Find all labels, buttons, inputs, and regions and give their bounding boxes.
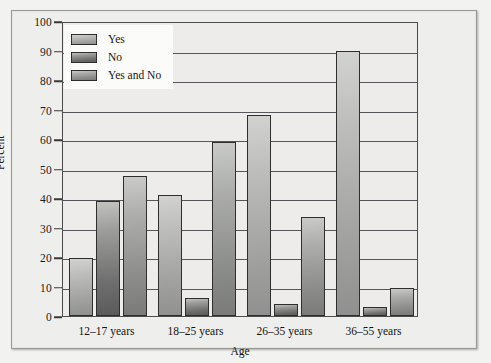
- bar-group: [247, 23, 325, 316]
- bar: [247, 115, 271, 316]
- legend-item: No: [71, 48, 161, 66]
- y-axis-tick-label: 100: [12, 16, 52, 28]
- legend-swatch-icon: [71, 52, 97, 63]
- y-axis-tick-mark: [54, 80, 62, 82]
- bar: [274, 304, 298, 316]
- bar: [336, 51, 360, 317]
- x-axis-tick-label: 26–35 years: [257, 325, 313, 337]
- legend-swatch-icon: [71, 34, 97, 45]
- legend-swatch-icon: [71, 70, 97, 81]
- y-axis-tick-label: 0: [12, 311, 52, 323]
- y-axis-tick-mark: [54, 257, 62, 259]
- x-axis-tick-label: 36–55 years: [346, 325, 402, 337]
- y-axis-tick-label: 40: [12, 193, 52, 205]
- legend-item-label: Yes and No: [108, 69, 161, 81]
- legend-item-label: Yes: [108, 33, 125, 45]
- y-axis-tick-label: 50: [12, 164, 52, 176]
- bar: [69, 258, 93, 316]
- y-axis-tick-label: 60: [12, 134, 52, 146]
- legend-item: Yes and No: [71, 66, 161, 84]
- bar: [212, 142, 236, 316]
- y-axis-tick-label: 10: [12, 282, 52, 294]
- bar: [158, 195, 182, 316]
- legend-item-label: No: [108, 51, 122, 63]
- y-axis-tick-label: 30: [12, 223, 52, 235]
- y-axis-tick-mark: [54, 316, 62, 318]
- chart-legend: YesNoYes and No: [64, 25, 173, 89]
- bar: [390, 288, 414, 316]
- y-axis-tick-label: 90: [12, 46, 52, 58]
- y-axis-tick-mark: [54, 139, 62, 141]
- y-axis-tick-mark: [54, 198, 62, 200]
- y-axis-tick-label: 70: [12, 105, 52, 117]
- y-axis-tick-mark: [54, 21, 62, 23]
- x-axis-label: Age: [230, 345, 249, 357]
- x-axis-tick-label: 18–25 years: [168, 325, 224, 337]
- y-axis-tick-mark: [54, 228, 62, 230]
- bar: [96, 201, 120, 316]
- bar-group: [336, 23, 414, 316]
- y-axis-tick-mark: [54, 169, 62, 171]
- bar-chart-figure: Percent 0102030405060708090100 12–17 yea…: [0, 0, 491, 363]
- bar: [363, 307, 387, 316]
- x-axis-tick-label: 12–17 years: [79, 325, 135, 337]
- bar: [301, 217, 325, 316]
- y-axis-label: Percent: [0, 136, 6, 170]
- y-axis-tick-mark: [54, 110, 62, 112]
- legend-item: Yes: [71, 30, 161, 48]
- y-axis-tick-label: 20: [12, 252, 52, 264]
- y-axis-tick-mark: [54, 287, 62, 289]
- y-axis-tick-label: 80: [12, 75, 52, 87]
- y-axis-tick-mark: [54, 51, 62, 53]
- bar: [123, 176, 147, 316]
- bar: [185, 298, 209, 316]
